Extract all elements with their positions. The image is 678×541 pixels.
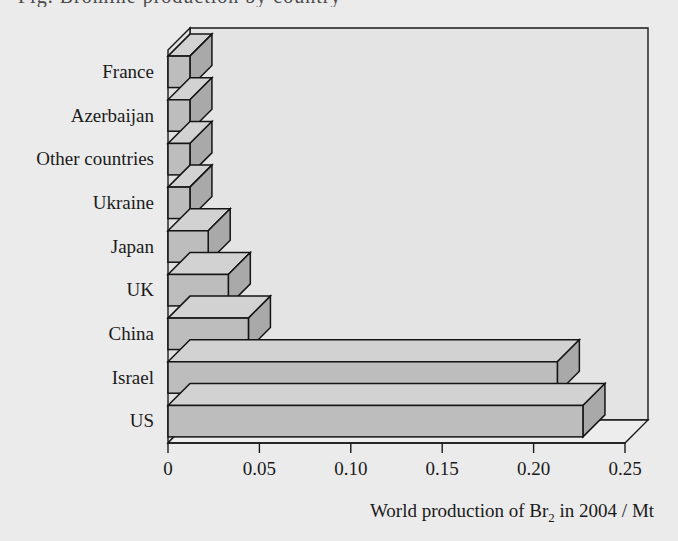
x-tick-label-0: 0 — [163, 458, 173, 479]
category-label-japan: Japan — [111, 236, 155, 257]
x-tick-label-4: 0.20 — [517, 458, 550, 479]
category-label-azerbaijan: Azerbaijan — [71, 105, 155, 126]
x-tick-label-5: 0.25 — [608, 458, 641, 479]
x-tick-labels: 00.050.100.150.200.25 — [163, 458, 641, 479]
category-labels: FranceAzerbaijanOther countriesUkraineJa… — [36, 61, 154, 431]
x-tick-label-3: 0.15 — [426, 458, 459, 479]
bar-top-face — [168, 383, 605, 405]
category-label-other-countries: Other countries — [36, 148, 154, 169]
bar-top-face — [168, 340, 579, 362]
x-tick-marks — [168, 443, 625, 453]
bar-us — [168, 383, 605, 436]
category-label-israel: Israel — [112, 367, 154, 388]
x-axis: 00.050.100.150.200.25 — [163, 443, 641, 479]
x-axis-title: World production of Br2 in 2004 / Mt — [370, 500, 655, 525]
x-tick-label-2: 0.10 — [334, 458, 367, 479]
category-label-ukraine: Ukraine — [93, 192, 154, 213]
x-tick-label-1: 0.05 — [243, 458, 276, 479]
bar-chart-3d: FranceAzerbaijanOther countriesUkraineJa… — [0, 0, 678, 541]
category-label-uk: UK — [127, 279, 155, 300]
category-label-china: China — [109, 323, 155, 344]
bar-front-face — [168, 405, 583, 436]
category-label-us: US — [130, 410, 154, 431]
category-label-france: France — [102, 61, 154, 82]
